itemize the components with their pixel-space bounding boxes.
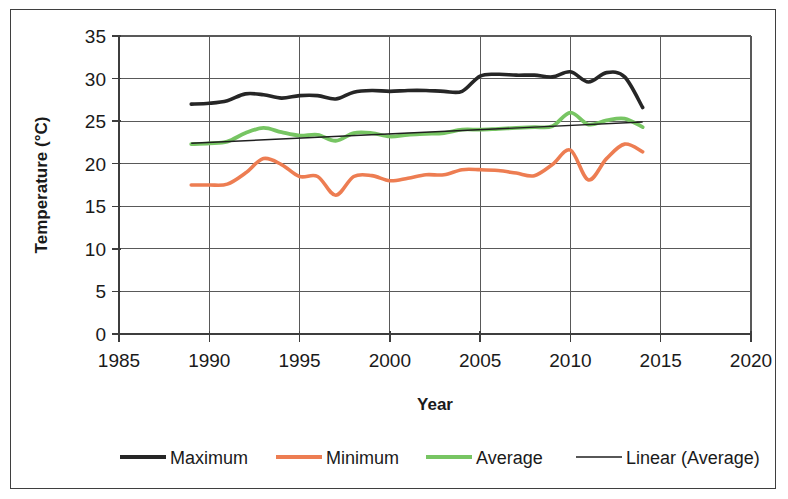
- legend-label: Maximum: [170, 448, 248, 468]
- legend-item: Minimum: [276, 448, 399, 468]
- axis-layer: [112, 36, 751, 342]
- x-tick-label: 2015: [640, 350, 682, 371]
- tick-label-layer: 0510152025303519851990199520002005201020…: [85, 26, 772, 371]
- x-axis-title: Year: [417, 395, 453, 414]
- legend-item: Linear (Average): [576, 448, 760, 468]
- chart-frame: 0510152025303519851990199520002005201020…: [10, 9, 776, 489]
- temperature-line-chart: 0510152025303519851990199520002005201020…: [11, 10, 777, 490]
- y-tick-label: 10: [85, 239, 106, 260]
- legend-label: Minimum: [326, 448, 399, 468]
- y-tick-label: 15: [85, 196, 106, 217]
- legend-layer: MaximumMinimumAverageLinear (Average): [120, 448, 760, 468]
- legend-label: Linear (Average): [626, 448, 760, 468]
- y-tick-label: 35: [85, 26, 106, 47]
- x-tick-label: 2010: [549, 350, 591, 371]
- y-tick-label: 0: [95, 324, 106, 345]
- series-line-maximum: [191, 72, 642, 108]
- series-line-minimum: [191, 144, 642, 195]
- x-tick-label: 2000: [369, 350, 411, 371]
- series-layer: [191, 72, 642, 196]
- legend-item: Average: [426, 448, 543, 468]
- trendline-linear-average: [191, 122, 642, 143]
- x-tick-label: 2005: [459, 350, 501, 371]
- y-tick-label: 30: [85, 69, 106, 90]
- legend-item: Maximum: [120, 448, 248, 468]
- y-tick-label: 20: [85, 154, 106, 175]
- x-tick-label: 1990: [188, 350, 230, 371]
- x-tick-label: 1995: [278, 350, 320, 371]
- y-tick-label: 25: [85, 111, 106, 132]
- legend-label: Average: [476, 448, 543, 468]
- x-tick-label: 1985: [98, 350, 140, 371]
- y-axis-title: Temperature (°C): [32, 117, 51, 254]
- x-tick-label: 2020: [730, 350, 772, 371]
- chart-plot-container: 0510152025303519851990199520002005201020…: [11, 10, 777, 490]
- y-tick-label: 5: [95, 281, 106, 302]
